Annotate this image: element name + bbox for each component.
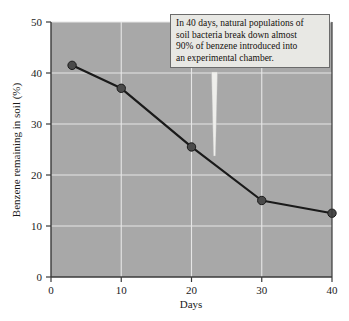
figure-container: 01020304050 010203040 Benzene remaining … (0, 0, 349, 321)
x-axis-title: Days (180, 298, 203, 310)
y-tick-label: 40 (31, 67, 43, 79)
annotation-line-4: an experimental chamber. (176, 53, 324, 65)
data-point-marker (258, 196, 266, 204)
y-tick-label: 50 (31, 16, 43, 28)
annotation-callout: In 40 days, natural populations of soil … (170, 14, 330, 68)
x-axis-tick-labels: 010203040 (48, 284, 338, 296)
annotation-line-3: 90% of benzene introduced into (176, 41, 324, 53)
y-tick-label: 20 (31, 169, 43, 181)
x-tick-label: 0 (48, 284, 54, 296)
annotation-line-1: In 40 days, natural populations of (176, 18, 324, 30)
y-axis-ticks (46, 22, 51, 277)
data-point-marker (68, 61, 76, 69)
x-tick-label: 40 (327, 284, 339, 296)
x-tick-label: 10 (116, 284, 128, 296)
y-tick-label: 30 (31, 118, 43, 130)
y-tick-label: 10 (31, 220, 43, 232)
y-tick-label: 0 (37, 271, 43, 283)
y-axis-tick-labels: 01020304050 (31, 16, 43, 283)
x-tick-label: 30 (256, 284, 268, 296)
annotation-line-2: soil bacteria break down almost (176, 30, 324, 42)
x-tick-label: 20 (186, 284, 198, 296)
data-point-marker (187, 143, 195, 151)
data-point-marker (117, 84, 125, 92)
y-axis-title: Benzene remaining in soil (%) (10, 82, 23, 217)
x-axis-ticks (51, 277, 332, 282)
